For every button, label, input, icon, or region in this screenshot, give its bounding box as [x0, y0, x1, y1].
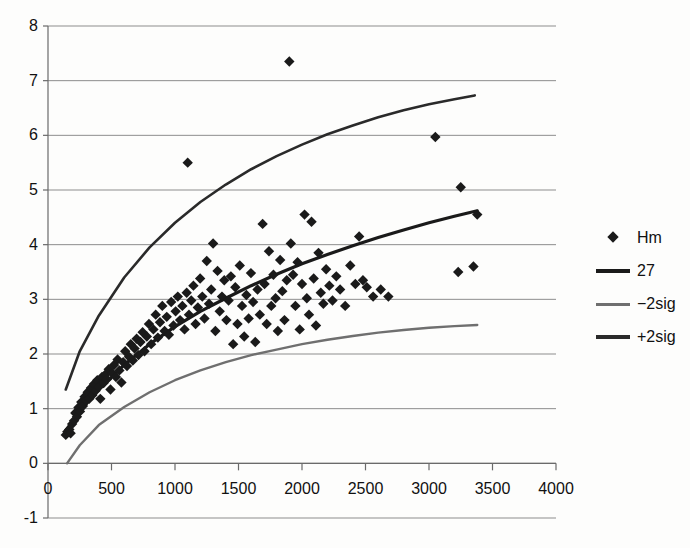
chart-container: -101234567805001000150020002500300035004… — [0, 0, 690, 548]
data-point — [340, 301, 350, 311]
line-icon — [596, 269, 630, 273]
data-point — [264, 246, 274, 256]
y-axis-tick-label: 5 — [4, 182, 38, 198]
data-point — [183, 157, 193, 167]
data-point — [243, 313, 253, 323]
data-point — [275, 255, 285, 265]
data-point — [212, 266, 222, 276]
data-point — [250, 337, 260, 347]
legend-item: 27 — [596, 254, 690, 287]
data-point — [345, 260, 355, 270]
data-point — [246, 268, 256, 278]
data-point — [279, 315, 289, 325]
legend-line-icon — [596, 264, 630, 278]
data-point — [354, 231, 364, 241]
data-point — [324, 280, 334, 290]
data-point — [206, 284, 216, 294]
data-point — [456, 182, 466, 192]
data-point — [179, 324, 189, 334]
x-axis-tick-label: 2500 — [331, 481, 401, 497]
data-point — [331, 271, 341, 281]
data-point — [190, 319, 200, 329]
data-point — [228, 339, 238, 349]
data-point — [284, 56, 294, 66]
y-axis-tick-label: 8 — [4, 18, 38, 34]
line-icon — [596, 335, 630, 339]
data-point — [316, 288, 326, 298]
data-point — [210, 326, 220, 336]
diamond-icon — [607, 231, 618, 242]
data-point — [311, 320, 321, 330]
data-point — [221, 315, 231, 325]
line-icon — [596, 303, 630, 306]
data-point — [368, 291, 378, 301]
data-point — [468, 261, 478, 271]
data-point — [197, 291, 207, 301]
data-point — [195, 273, 205, 283]
data-point — [335, 284, 345, 294]
legend-item-label: +2sig — [637, 328, 676, 346]
data-point — [184, 309, 194, 319]
trend-lines — [66, 95, 477, 463]
legend-diamond-icon — [596, 231, 630, 245]
data-point — [290, 301, 300, 311]
legend-item-label: 27 — [637, 262, 655, 280]
data-point — [257, 219, 267, 229]
data-point — [286, 238, 296, 248]
trend-line-27 — [66, 211, 477, 431]
legend-item: −2sig — [596, 287, 690, 320]
x-axis-tick-label: 500 — [77, 481, 147, 497]
data-point — [261, 319, 271, 329]
axis-ticks — [43, 26, 556, 518]
y-axis-tick-label: 7 — [4, 73, 38, 89]
data-point — [235, 260, 245, 270]
y-axis-tick-label: 4 — [4, 237, 38, 253]
data-point — [199, 313, 209, 323]
plot-area — [0, 0, 690, 548]
legend-line-icon — [596, 330, 630, 344]
legend-item: Hm — [596, 221, 690, 254]
data-point — [327, 295, 337, 305]
data-point — [304, 309, 314, 319]
data-point — [295, 324, 305, 334]
data-point — [237, 301, 247, 311]
data-point — [383, 291, 393, 301]
legend-item: +2sig — [596, 320, 690, 353]
data-point — [376, 284, 386, 294]
x-axis-tick-label: 4000 — [521, 481, 591, 497]
data-point — [318, 299, 328, 309]
data-point — [202, 256, 212, 266]
gridlines — [48, 26, 556, 518]
data-point — [306, 217, 316, 227]
data-point — [321, 264, 331, 274]
data-point — [299, 209, 309, 219]
x-axis-tick-label: 0 — [13, 481, 83, 497]
data-point — [248, 297, 258, 307]
legend-item-label: −2sig — [637, 295, 676, 313]
data-point — [453, 267, 463, 277]
data-point — [277, 286, 287, 296]
data-point — [208, 238, 218, 248]
y-axis-tick-label: 3 — [4, 291, 38, 307]
data-point — [273, 326, 283, 336]
x-axis-tick-label: 1500 — [204, 481, 274, 497]
data-point — [232, 319, 242, 329]
legend-item-label: Hm — [637, 229, 662, 247]
data-point — [308, 273, 318, 283]
data-point — [302, 293, 312, 303]
legend-line-icon — [596, 297, 630, 311]
y-axis-tick-label: 6 — [4, 127, 38, 143]
y-axis-tick-label: -1 — [4, 510, 38, 526]
data-point — [188, 280, 198, 290]
data-point — [105, 384, 115, 394]
data-point — [215, 306, 225, 316]
data-point — [297, 279, 307, 289]
scatter-points — [61, 56, 483, 440]
y-axis-tick-label: 0 — [4, 455, 38, 471]
x-axis-tick-label: 2000 — [267, 481, 337, 497]
axis-lines — [48, 26, 556, 518]
x-axis-tick-label: 1000 — [140, 481, 210, 497]
data-point — [157, 301, 167, 311]
data-point — [255, 309, 265, 319]
x-axis-tick-label: 3500 — [458, 481, 528, 497]
